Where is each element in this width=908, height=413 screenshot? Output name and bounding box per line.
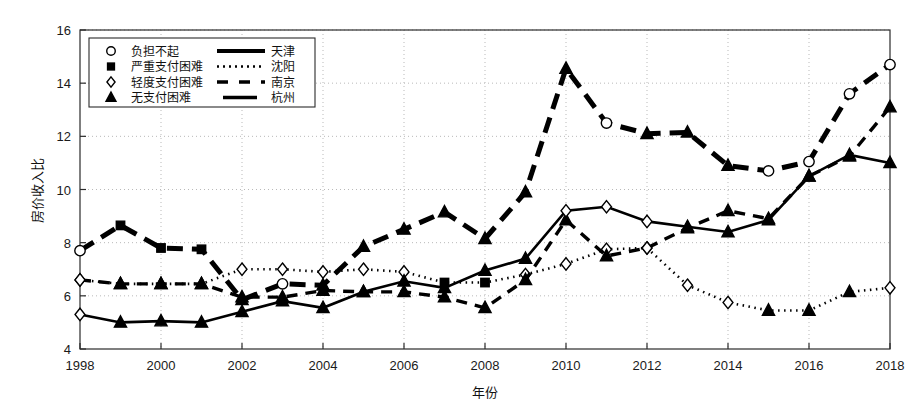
legend-city-label: 杭州 bbox=[271, 90, 295, 105]
x-tick-label: 2008 bbox=[471, 358, 500, 373]
data-point-marker-square bbox=[197, 245, 205, 253]
data-point-marker-triangle bbox=[519, 186, 531, 197]
data-point-marker-diamond bbox=[642, 215, 652, 227]
data-point-marker-triangle bbox=[438, 205, 450, 216]
data-point-marker-square bbox=[481, 278, 489, 286]
data-point-marker-diamond bbox=[318, 266, 328, 278]
legend-marker-label: 轻度支付困难 bbox=[131, 75, 203, 90]
chart-legend: 负担不起天津严重支付困难沈阳轻度支付困难南京无支付困难杭州 bbox=[89, 38, 315, 107]
legend-marker-label: 无支付困难 bbox=[131, 91, 191, 105]
x-axis-title: 年份 bbox=[472, 385, 498, 400]
legend-marker-label: 严重支付困难 bbox=[131, 60, 203, 74]
data-point-marker-triangle bbox=[843, 285, 855, 296]
x-tick-label: 2010 bbox=[552, 358, 581, 373]
y-tick-label: 8 bbox=[64, 236, 71, 251]
data-point-marker-triangle bbox=[722, 204, 734, 215]
data-point-marker-diamond bbox=[602, 201, 612, 213]
y-tick-label: 14 bbox=[57, 76, 71, 91]
y-tick-label: 4 bbox=[64, 342, 71, 357]
legend-city-label: 沈阳 bbox=[271, 59, 295, 74]
data-point-marker-square bbox=[108, 63, 115, 70]
data-point-marker-triangle bbox=[803, 304, 815, 315]
data-point-marker-circle bbox=[75, 245, 85, 255]
data-point-marker-circle bbox=[277, 279, 287, 289]
data-point-marker-circle bbox=[885, 59, 895, 69]
data-point-marker-circle bbox=[107, 47, 116, 56]
x-tick-label: 1998 bbox=[66, 358, 95, 373]
data-point-marker-diamond bbox=[237, 263, 247, 275]
house-price-income-ratio-line-chart: 46810121416 1998200020022004200620082010… bbox=[0, 0, 908, 413]
x-axis-ticks: 1998200020022004200620082010201220142016… bbox=[66, 343, 905, 373]
data-point-marker-circle bbox=[804, 156, 814, 166]
y-tick-label: 12 bbox=[57, 129, 71, 144]
x-tick-label: 2018 bbox=[876, 358, 905, 373]
x-tick-label: 2014 bbox=[714, 358, 743, 373]
x-tick-label: 2000 bbox=[147, 358, 176, 373]
x-tick-label: 2002 bbox=[228, 358, 257, 373]
data-point-marker-diamond bbox=[885, 282, 895, 294]
data-point-marker-circle bbox=[763, 166, 773, 176]
y-tick-label: 6 bbox=[64, 289, 71, 304]
svg-text:年份: 年份 bbox=[472, 385, 498, 400]
data-point-marker-square bbox=[157, 244, 165, 252]
x-tick-label: 2006 bbox=[390, 358, 419, 373]
chart-figure: 46810121416 1998200020022004200620082010… bbox=[0, 0, 908, 413]
data-point-marker-triangle bbox=[357, 240, 369, 251]
data-point-marker-triangle bbox=[884, 100, 896, 111]
data-point-marker-triangle bbox=[843, 148, 855, 159]
data-point-marker-diamond bbox=[723, 296, 733, 308]
data-point-marker-diamond bbox=[75, 274, 85, 286]
data-point-marker-diamond bbox=[561, 258, 571, 270]
y-tick-label: 16 bbox=[57, 23, 71, 38]
legend-city-label: 天津 bbox=[271, 45, 295, 59]
y-tick-label: 10 bbox=[57, 183, 71, 198]
legend-marker-label: 负担不起 bbox=[131, 45, 179, 59]
data-point-marker-diamond bbox=[683, 279, 693, 291]
data-point-marker-diamond bbox=[75, 308, 85, 320]
data-point-marker-circle bbox=[844, 89, 854, 99]
data-point-marker-square bbox=[116, 221, 124, 229]
data-point-marker-triangle bbox=[398, 275, 410, 286]
data-point-marker-diamond bbox=[278, 263, 288, 275]
data-point-marker-triangle bbox=[560, 62, 572, 73]
legend-city-label: 南京 bbox=[271, 75, 295, 90]
data-point-marker-circle bbox=[601, 118, 611, 128]
data-point-marker-diamond bbox=[642, 242, 652, 254]
y-axis-title: 房价收入比 bbox=[30, 158, 45, 223]
x-tick-label: 2004 bbox=[309, 358, 338, 373]
y-axis-ticks: 46810121416 bbox=[57, 23, 86, 357]
x-tick-label: 2016 bbox=[795, 358, 824, 373]
svg-text:房价收入比: 房价收入比 bbox=[30, 158, 45, 223]
x-tick-label: 2012 bbox=[633, 358, 662, 373]
data-point-marker-diamond bbox=[359, 263, 369, 275]
